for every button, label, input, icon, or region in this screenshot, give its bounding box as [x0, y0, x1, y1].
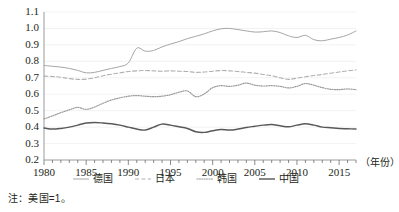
- x-tick-label: 2005: [244, 166, 267, 178]
- y-tick-label: 0.4: [25, 120, 39, 132]
- y-tick-label: 1.1: [25, 5, 39, 17]
- y-tick-labels: 0.20.30.40.50.60.70.80.91.01.1: [25, 5, 39, 165]
- line-chart: 0.20.30.40.50.60.70.80.91.01.1 198019851…: [0, 0, 399, 185]
- x-tick-label: 1980: [33, 166, 56, 178]
- figure-container: 0.20.30.40.50.60.70.80.91.01.1 198019851…: [0, 0, 399, 212]
- legend-label-中国[interactable]: 中国: [279, 172, 299, 184]
- legend-label-日本[interactable]: 日本: [155, 172, 175, 184]
- legend-label-德国[interactable]: 德国: [93, 172, 113, 184]
- x-tick-marks: [44, 160, 356, 165]
- y-tick-label: 0.2: [25, 153, 39, 165]
- x-axis-title: （年份）: [360, 156, 399, 168]
- series-line-韩国: [44, 83, 356, 119]
- series-line-中国: [44, 123, 356, 133]
- x-tick-label: 2015: [328, 166, 351, 178]
- series-layer: [44, 28, 356, 132]
- x-tick-label: 1990: [117, 166, 140, 178]
- y-tick-label: 0.7: [25, 71, 39, 83]
- y-tick-label: 1.0: [25, 21, 39, 33]
- y-tick-label: 0.8: [25, 54, 39, 66]
- series-line-德国: [44, 28, 356, 73]
- y-tick-label: 0.6: [25, 87, 39, 99]
- chart-note: 注：美国=1。: [8, 190, 71, 205]
- y-tick-label: 0.5: [25, 104, 39, 116]
- chart-area: 0.20.30.40.50.60.70.80.91.01.1 198019851…: [0, 0, 399, 185]
- y-tick-label: 0.9: [25, 38, 39, 50]
- legend-label-韩国[interactable]: 韩国: [217, 172, 237, 184]
- y-tick-label: 0.3: [25, 137, 39, 149]
- x-tick-labels: 19801985199019952000200520102015: [33, 166, 351, 178]
